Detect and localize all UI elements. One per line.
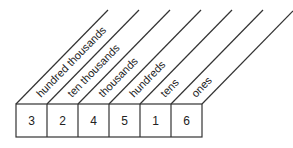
- slant-line: [47, 10, 139, 104]
- digit-tens: 1: [140, 104, 171, 137]
- digit-hundred-thousands: 3: [16, 104, 47, 137]
- digit-ten-thousands: 2: [47, 104, 78, 137]
- digit-thousands: 4: [78, 104, 109, 137]
- slant-line: [140, 10, 232, 104]
- digit-ones: 6: [171, 104, 202, 137]
- slant-line: [16, 10, 108, 104]
- label-tens: tens: [158, 76, 181, 100]
- slant-line: [202, 11, 293, 104]
- digit-hundreds: 5: [109, 104, 140, 137]
- slant-line: [109, 10, 201, 104]
- slant-line: [78, 10, 170, 104]
- slant-line: [171, 10, 263, 104]
